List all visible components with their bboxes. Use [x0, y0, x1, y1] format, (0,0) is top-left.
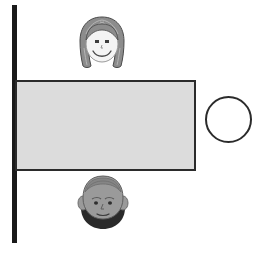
girl-face-svg [73, 14, 131, 72]
scene-canvas [0, 0, 267, 255]
open-circle [205, 96, 252, 143]
girl-face [73, 14, 131, 72]
bearded-man-face [76, 174, 130, 232]
man-face-svg [76, 174, 130, 232]
gray-panel [15, 80, 196, 171]
